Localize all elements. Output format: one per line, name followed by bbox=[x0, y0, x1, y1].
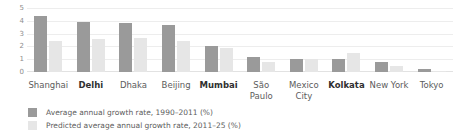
bar-group bbox=[197, 8, 240, 72]
legend-swatch-predicted bbox=[28, 121, 37, 130]
category-label: Beijing bbox=[155, 80, 198, 106]
bar-predicted-growth bbox=[390, 66, 403, 72]
bars-layer bbox=[27, 8, 453, 72]
y-axis-tick-label: 0 bbox=[8, 69, 24, 76]
category-label: Dhaka bbox=[112, 80, 155, 106]
y-axis-tick-label: 3 bbox=[8, 30, 24, 37]
category-axis-labels: ShanghaiDelhiDhakaBeijingMumbaiSão Paulo… bbox=[27, 80, 453, 106]
bar-predicted-growth bbox=[92, 39, 105, 72]
legend-label: Predicted average annual growth rate, 20… bbox=[46, 121, 241, 130]
category-label: Tokyo bbox=[410, 80, 453, 106]
bar-group bbox=[283, 8, 326, 72]
y-axis-tick-label: 2 bbox=[8, 43, 24, 50]
bar-predicted-growth bbox=[262, 62, 275, 72]
bar-group bbox=[70, 8, 113, 72]
bar-actual-growth bbox=[77, 22, 90, 72]
bar-predicted-growth bbox=[347, 53, 360, 72]
grouped-bar-chart: 543210 ShanghaiDelhiDhakaBeijingMumbaiSã… bbox=[0, 0, 457, 138]
y-axis-tick-label: 5 bbox=[8, 5, 24, 12]
y-axis-tick-label: 1 bbox=[8, 56, 24, 63]
bar-actual-growth bbox=[290, 59, 303, 72]
bar-actual-growth bbox=[34, 16, 47, 72]
bar-actual-growth bbox=[205, 46, 218, 72]
legend-label: Average annual growth rate, 1990–2011 (%… bbox=[46, 108, 213, 117]
bar-group bbox=[27, 8, 70, 72]
bar-group bbox=[368, 8, 411, 72]
bar-actual-growth bbox=[162, 25, 175, 72]
bar-predicted-growth bbox=[220, 48, 233, 72]
category-label: Kolkata bbox=[325, 80, 368, 106]
plot-area: 543210 bbox=[0, 0, 457, 78]
bar-predicted-growth bbox=[177, 41, 190, 72]
bar-actual-growth bbox=[247, 57, 260, 72]
category-label: Mumbai bbox=[197, 80, 240, 106]
y-axis-tick-label: 4 bbox=[8, 17, 24, 24]
bar-predicted-growth bbox=[49, 41, 62, 72]
category-label: Mexico City bbox=[283, 80, 326, 106]
legend-swatch-actual bbox=[28, 108, 37, 117]
category-label: Delhi bbox=[70, 80, 113, 106]
legend-item: Predicted average annual growth rate, 20… bbox=[28, 119, 448, 132]
bar-group bbox=[325, 8, 368, 72]
bar-actual-growth bbox=[332, 59, 345, 72]
bar-group bbox=[410, 8, 453, 72]
bar-group bbox=[155, 8, 198, 72]
bar-group bbox=[240, 8, 283, 72]
bar-predicted-growth bbox=[433, 71, 446, 72]
legend-item: Average annual growth rate, 1990–2011 (%… bbox=[28, 106, 448, 119]
category-label: New York bbox=[368, 80, 411, 106]
bar-actual-growth bbox=[418, 69, 431, 72]
chart-legend: Average annual growth rate, 1990–2011 (%… bbox=[28, 106, 448, 132]
y-axis: 543210 bbox=[8, 8, 24, 72]
category-label: Shanghai bbox=[27, 80, 70, 106]
bar-predicted-growth bbox=[134, 38, 147, 72]
bar-group bbox=[112, 8, 155, 72]
category-label: São Paulo bbox=[240, 80, 283, 106]
bar-predicted-growth bbox=[305, 59, 318, 72]
bar-actual-growth bbox=[375, 62, 388, 72]
bar-actual-growth bbox=[119, 23, 132, 72]
